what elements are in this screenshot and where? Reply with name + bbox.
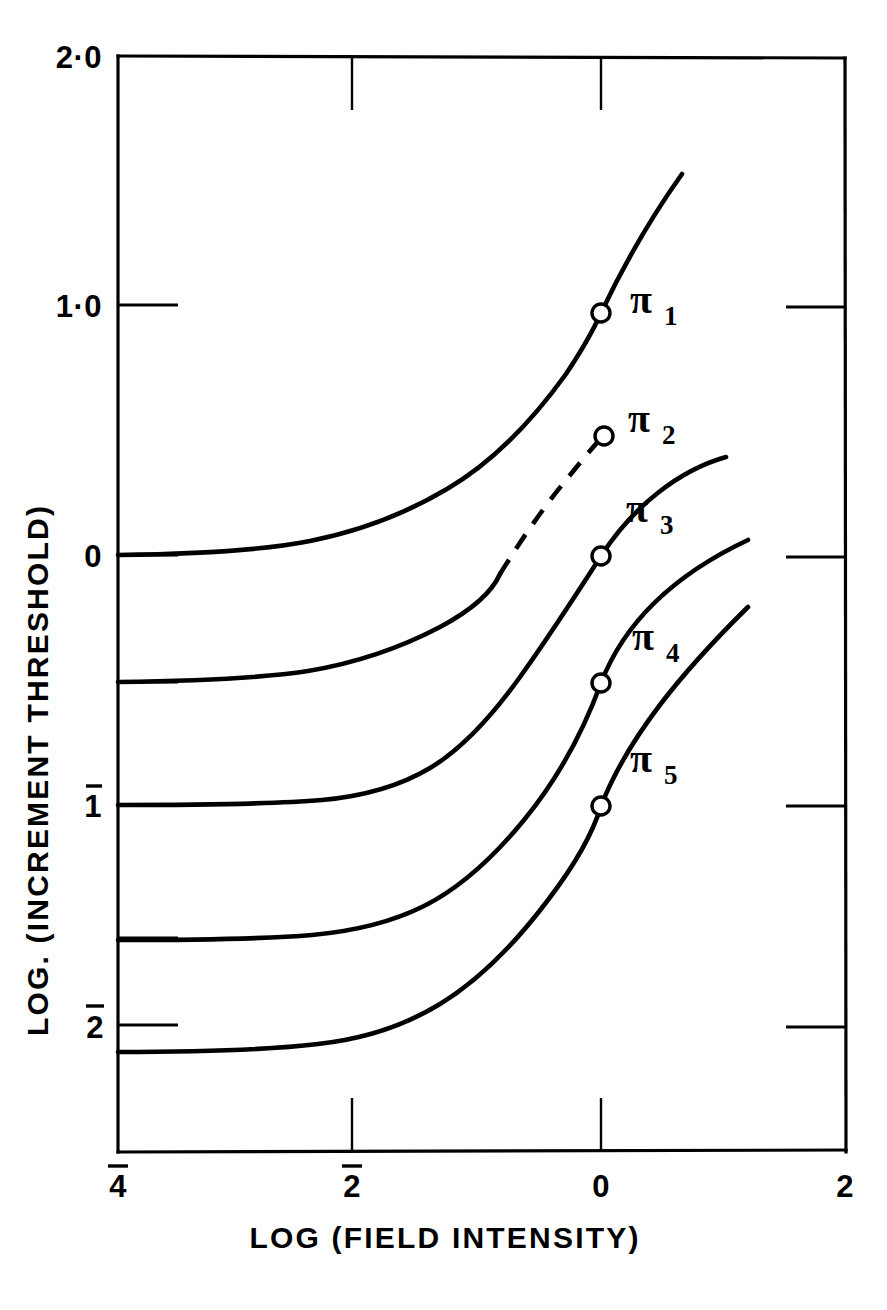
curve-pi4 bbox=[118, 540, 748, 940]
plot-frame bbox=[118, 56, 846, 1152]
x-tick-label-0: 0 bbox=[592, 1169, 610, 1204]
top-spine bbox=[118, 56, 845, 58]
y-tick-label-minus-1-group: 1 bbox=[84, 786, 102, 824]
curve-label-pi5: π 5 bbox=[630, 736, 678, 790]
curve-label-pi3-sub: 3 bbox=[660, 510, 674, 540]
x-tick-label-minus-2-group: 2 bbox=[342, 1166, 362, 1204]
curve-pi2-solid bbox=[118, 574, 500, 682]
y-tick-label-1-0: 1·0 bbox=[56, 289, 102, 324]
marker-pi4 bbox=[592, 674, 610, 692]
top-axis-ticks bbox=[352, 58, 601, 110]
marker-pi5 bbox=[592, 797, 610, 815]
curve-label-pi1-text: π bbox=[630, 277, 652, 322]
x-tick-label-minus-4-group: 4 bbox=[108, 1166, 128, 1204]
y-tick-label-minus-1: 1 bbox=[84, 789, 102, 824]
y-tick-label-2-0: 2·0 bbox=[56, 40, 102, 75]
curve-pi5 bbox=[118, 607, 748, 1052]
y-tick-label-minus-2-group: 2 bbox=[86, 1006, 104, 1045]
y-axis-ticks bbox=[118, 305, 178, 1025]
data-markers bbox=[592, 304, 613, 815]
y-tick-label-minus-2: 2 bbox=[86, 1010, 104, 1045]
x-axis-title: LOG (FIELD INTENSITY) bbox=[249, 1221, 640, 1254]
marker-pi2 bbox=[595, 427, 613, 445]
curve-label-pi2-sub: 2 bbox=[662, 420, 676, 450]
x-axis-spine bbox=[118, 1150, 846, 1152]
y-axis-title: LOG. (INCREMENT THRESHOLD) bbox=[21, 504, 54, 1036]
curve-label-pi3: π 3 bbox=[626, 486, 674, 540]
x-tick-label-minus-2: 2 bbox=[343, 1169, 361, 1204]
curve-pi2-dashed bbox=[500, 436, 603, 574]
curve-label-pi3-text: π bbox=[626, 486, 648, 531]
curve-label-pi5-text: π bbox=[630, 736, 652, 781]
figure-container: π 1 π 2 π 3 π 4 π 5 2·0 1·0 0 1 2 bbox=[0, 0, 887, 1310]
curve-label-pi4-text: π bbox=[632, 614, 654, 659]
marker-pi1 bbox=[592, 304, 610, 322]
marker-pi3 bbox=[592, 547, 610, 565]
curve-label-pi5-sub: 5 bbox=[664, 760, 678, 790]
x-tick-label-minus-4: 4 bbox=[109, 1169, 127, 1204]
x2-axis-spine bbox=[845, 58, 846, 1152]
curve-label-pi4: π 4 bbox=[632, 614, 680, 668]
curve-pi1 bbox=[118, 174, 682, 555]
curve-label-pi1-sub: 1 bbox=[664, 301, 678, 331]
curve-label-pi2: π 2 bbox=[628, 396, 676, 450]
x-axis-ticks bbox=[352, 1098, 601, 1152]
increment-threshold-chart: π 1 π 2 π 3 π 4 π 5 2·0 1·0 0 1 2 bbox=[0, 0, 887, 1310]
curve-label-pi2-text: π bbox=[628, 396, 650, 441]
x-tick-label-2: 2 bbox=[836, 1169, 854, 1204]
right-axis-ticks bbox=[786, 307, 846, 1027]
y-tick-label-0: 0 bbox=[84, 539, 102, 574]
curve-label-pi4-sub: 4 bbox=[666, 638, 680, 668]
curve-label-pi1: π 1 bbox=[630, 277, 678, 331]
